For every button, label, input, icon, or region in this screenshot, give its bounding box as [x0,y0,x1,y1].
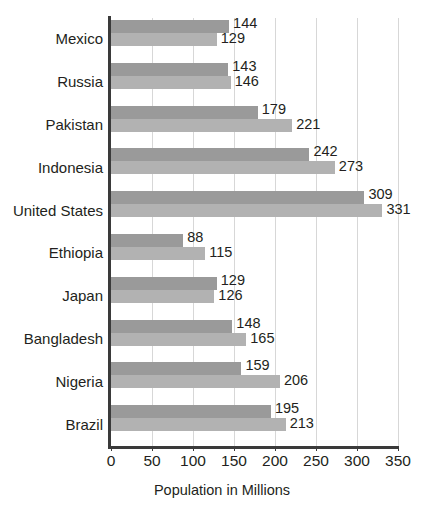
bar [111,320,232,333]
x-axis-title: Population in Millions [0,482,444,498]
x-tick-mark [357,446,358,451]
x-tick-mark [193,446,194,451]
bar-value-label: 221 [296,118,320,131]
bar-value-label: 273 [339,160,363,173]
bar [111,148,309,161]
bar-group: 148165 [111,318,398,361]
bar [111,106,258,119]
bar [111,33,217,46]
bar-group: 159206 [111,360,398,403]
bar-value-label: 213 [290,417,314,430]
bar-value-label: 309 [368,188,392,201]
category-label-united-states: United States [0,203,103,219]
bar [111,191,364,204]
bar [111,277,217,290]
bar [111,20,229,33]
bar [111,375,280,388]
category-label-nigeria: Nigeria [0,374,103,390]
category-label-indonesia: Indonesia [0,160,103,176]
x-tick-label: 300 [344,452,370,470]
bar [111,333,246,346]
bar-group: 88115 [111,232,398,275]
bar-value-label: 143 [232,60,256,73]
bar [111,362,241,375]
bar-group: 143146 [111,61,398,104]
bar-group: 179221 [111,104,398,147]
bar-group: 309331 [111,189,398,232]
bar [111,161,335,174]
bar [111,405,271,418]
bar [111,76,231,89]
bar-value-label: 179 [262,103,286,116]
bar-group: 195213 [111,403,398,446]
x-tick-label: 150 [221,452,247,470]
category-label-mexico: Mexico [0,31,103,47]
bar-value-label: 195 [275,402,299,415]
bar-chart: MexicoRussiaPakistanIndonesiaUnited Stat… [0,0,444,515]
bar-value-label: 206 [284,374,308,387]
x-tick-label: 350 [385,452,411,470]
bar [111,204,382,217]
bar [111,247,205,260]
x-tick-mark [316,446,317,451]
bar [111,234,183,247]
category-label-ethiopia: Ethiopia [0,245,103,261]
x-tick-label: 0 [107,452,116,470]
x-tick-mark [398,446,399,451]
bar-value-label: 159 [245,359,269,372]
plot-area: 1441291431461792212422733093318811512912… [111,18,398,446]
bar [111,63,228,76]
bar-group: 242273 [111,146,398,189]
x-tick-mark [234,446,235,451]
bar-group: 129126 [111,275,398,318]
x-tick-label: 100 [180,452,206,470]
bar-value-label: 115 [209,246,232,259]
category-label-bangladesh: Bangladesh [0,331,103,347]
bar-value-label: 165 [250,332,274,345]
gridline [398,18,399,446]
category-axis-labels: MexicoRussiaPakistanIndonesiaUnited Stat… [0,18,103,446]
bar [111,290,214,303]
bar-group: 144129 [111,18,398,61]
bar-value-label: 88 [187,231,203,244]
bar [111,418,286,431]
bar-value-label: 144 [233,17,257,30]
bar-value-label: 242 [313,145,337,158]
category-label-japan: Japan [0,288,103,304]
x-tick-mark [152,446,153,451]
bar-value-label: 129 [221,274,245,287]
x-tick-mark [111,446,112,451]
x-tick-label: 50 [143,452,160,470]
category-label-pakistan: Pakistan [0,117,103,133]
category-label-russia: Russia [0,74,103,90]
bar [111,119,292,132]
bar-value-label: 148 [236,317,260,330]
bar-value-label: 331 [386,203,410,216]
bar-value-label: 129 [221,32,245,45]
x-tick-mark [275,446,276,451]
x-tick-label: 250 [303,452,329,470]
x-tick-label: 200 [262,452,288,470]
bar-value-label: 146 [235,75,259,88]
bar-value-label: 126 [218,289,242,302]
category-label-brazil: Brazil [0,417,103,433]
